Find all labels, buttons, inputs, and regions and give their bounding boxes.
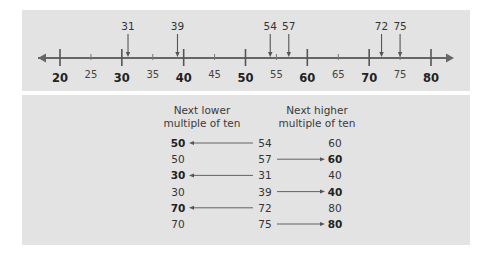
marked-point-label: 72 bbox=[375, 20, 388, 32]
left-arrow-icon bbox=[38, 54, 46, 63]
marked-point-label: 39 bbox=[171, 20, 184, 32]
marked-point-label: 57 bbox=[282, 20, 295, 32]
major-tick-label: 70 bbox=[361, 71, 377, 85]
arrowhead-icon bbox=[126, 52, 130, 57]
minor-tick-label: 75 bbox=[394, 69, 407, 80]
marked-point-label: 54 bbox=[264, 20, 278, 32]
minor-tick-label: 35 bbox=[146, 69, 159, 80]
marked-points: 313954577275 bbox=[121, 20, 406, 57]
marked-point-label: 75 bbox=[393, 20, 406, 32]
rounding-table-panel: Next lower multiple of ten Next higher m… bbox=[22, 95, 470, 245]
minor-tick-label: 45 bbox=[208, 69, 221, 80]
arrowhead-icon bbox=[398, 52, 402, 57]
marked-point-label: 31 bbox=[121, 20, 134, 32]
arrowhead-icon bbox=[175, 52, 179, 57]
arrowhead-icon bbox=[379, 52, 383, 57]
right-arrow-icon bbox=[320, 157, 325, 161]
left-arrow-icon bbox=[189, 206, 194, 210]
row-arrows bbox=[22, 95, 470, 245]
minor-tick-label: 25 bbox=[85, 69, 98, 80]
major-tick-label: 50 bbox=[237, 71, 253, 85]
major-tick-label: 40 bbox=[176, 71, 192, 85]
left-arrow-icon bbox=[189, 173, 194, 177]
arrowhead-icon bbox=[287, 52, 291, 57]
arrowhead-icon bbox=[268, 52, 272, 57]
major-tick-label: 20 bbox=[52, 71, 68, 85]
minor-tick-label: 65 bbox=[332, 69, 345, 80]
major-tick-label: 30 bbox=[114, 71, 130, 85]
major-tick-label: 60 bbox=[299, 71, 315, 85]
major-tick-label: 80 bbox=[423, 71, 439, 85]
number-line: 20304050607080253545556575 313954577275 bbox=[22, 10, 470, 91]
right-arrow-icon bbox=[320, 190, 325, 194]
right-arrow-icon bbox=[446, 54, 454, 63]
minor-tick-label: 55 bbox=[270, 69, 283, 80]
left-arrow-icon bbox=[189, 141, 194, 145]
right-arrow-icon bbox=[320, 222, 325, 226]
number-line-panel: 20304050607080253545556575 313954577275 bbox=[22, 10, 470, 91]
